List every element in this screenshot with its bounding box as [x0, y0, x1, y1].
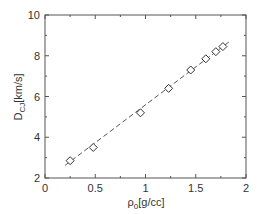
x-tick-label: 1.5 — [188, 182, 203, 194]
y-axis-label: DCJ[km/s] — [12, 73, 27, 120]
y-tick-label: 4 — [34, 131, 40, 143]
data-markers — [66, 43, 227, 165]
x-axis-label: ρ0[g/cc] — [127, 196, 164, 211]
diamond-marker — [89, 143, 97, 151]
x-tick-label: 0.5 — [88, 182, 103, 194]
plot-area-border — [45, 15, 246, 178]
y-tick-label: 8 — [34, 50, 40, 62]
y-tick-label: 2 — [34, 172, 40, 184]
plot-frame — [45, 15, 246, 178]
diamond-marker — [136, 109, 144, 117]
x-tick-label: 1 — [142, 182, 148, 194]
y-tick-label: 6 — [34, 91, 40, 103]
y-axis-ticks: 246810 — [28, 9, 246, 184]
chart: 00.511.52 246810 ρ0[g/cc] DCJ[km/s] — [0, 0, 258, 214]
y-tick-label: 10 — [28, 9, 40, 21]
x-tick-label: 2 — [243, 182, 249, 194]
x-tick-label: 0 — [42, 182, 48, 194]
diamond-marker — [219, 43, 227, 51]
